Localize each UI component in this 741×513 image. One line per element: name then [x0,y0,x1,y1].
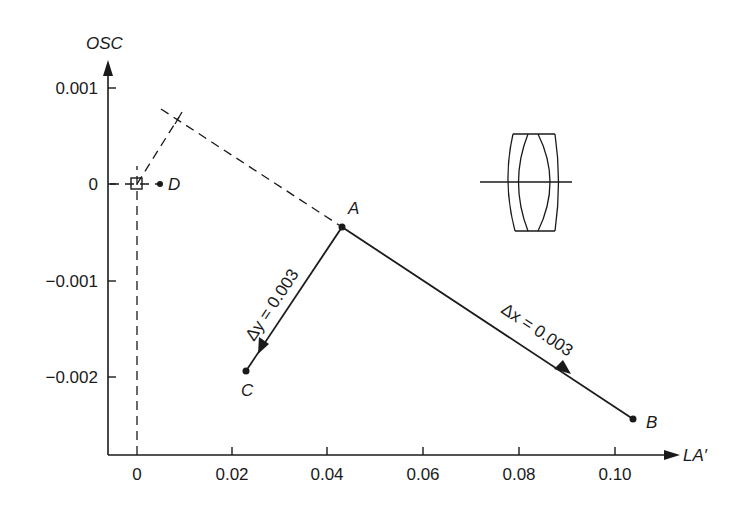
y-axis-label: OSC [86,34,124,53]
vector-a-to-b [342,227,633,419]
point-b [630,416,637,423]
y-tick-label: 0 [89,175,98,194]
y-axis [103,60,116,455]
y-axis-arrow-icon [103,60,113,76]
vector-a-to-c [246,227,342,371]
x-tick-label: 0 [132,465,141,484]
x-tick-label: 0.02 [215,465,248,484]
x-tick-label: 0.04 [310,465,343,484]
diagram-canvas: OSC LA′ 0.001 0 −0.001 −0.002 0 0.02 0.0… [0,0,741,513]
point-d [157,181,163,187]
x-tick-label: 0.08 [502,465,535,484]
x-axis-label: LA′ [683,446,708,465]
delta-x-label: Δx = 0.003 [498,299,577,360]
y-tick-label: −0.002 [46,368,98,387]
y-tick-label: 0.001 [55,79,98,98]
point-a-label: A [347,199,359,218]
x-axis-arrow-icon [664,450,680,460]
x-axis [108,447,680,460]
x-tick-label: 0.06 [406,465,439,484]
point-c [243,368,250,375]
dashed-perpendicular [137,117,179,184]
y-tick-label: −0.001 [46,272,98,291]
point-a [339,224,346,231]
point-d-label: D [168,175,180,194]
point-c-label: C [241,381,254,400]
dashed-extension-ab [161,109,342,227]
x-tick-label: 0.10 [598,465,631,484]
construction-lines [110,109,342,455]
point-b-label: B [646,413,657,432]
lens-diagram-icon [480,134,572,231]
